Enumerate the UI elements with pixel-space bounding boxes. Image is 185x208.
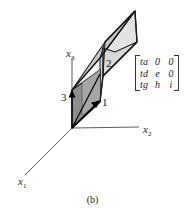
x2-axis-label: x2: [143, 124, 151, 138]
matrix-row: tg h i: [140, 79, 175, 91]
matrix-cell: tg: [140, 79, 148, 91]
matrix-row: td e 0: [140, 68, 175, 80]
x1-axis-label: x1: [18, 176, 26, 190]
vector-1-label: 1: [102, 97, 108, 108]
matrix-cell: ta: [140, 56, 148, 68]
figure-caption: (b): [0, 194, 185, 205]
x2-axis: [72, 127, 139, 128]
transformation-matrix: ta 0 0 td e 0 tg h i: [135, 55, 179, 91]
matrix-row: ta 0 0: [140, 56, 175, 68]
matrix-cell: e: [154, 68, 162, 80]
matrix-cell: td: [140, 68, 148, 80]
x1-axis: [25, 128, 72, 175]
diagram-canvas: [0, 0, 185, 208]
matrix-cell: h: [154, 79, 162, 91]
right-bracket: [174, 55, 179, 91]
x3-axis-label: x3: [66, 48, 74, 62]
vector-2-label: 2: [106, 58, 112, 69]
sheared-parallelepiped-figure: x3 x2 x1 1 2 3 ta 0 0 td e 0 tg h i (b): [0, 0, 185, 208]
matrix-cell: 0: [154, 56, 162, 68]
vector-3-label: 3: [61, 92, 67, 103]
